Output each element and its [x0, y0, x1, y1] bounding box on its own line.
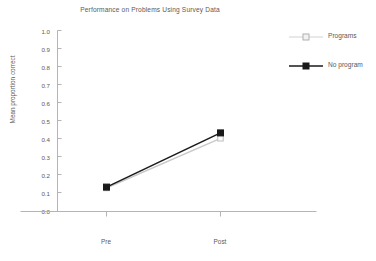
y-axis-ticks	[58, 31, 62, 212]
data-point-marker	[218, 130, 224, 136]
legend-label-no-program: No program	[328, 61, 363, 68]
series-programs	[104, 136, 223, 191]
legend-swatch-programs-icon	[288, 30, 324, 44]
chart-figure: Performance on Problems Using Survey Dat…	[0, 0, 376, 261]
data-point-marker	[104, 184, 110, 190]
legend-swatch-no-program-icon	[288, 59, 324, 73]
legend-label-programs: Programs	[328, 32, 357, 39]
legend-item-no-program[interactable]: No program	[288, 59, 376, 75]
chart-legend: Programs No program	[288, 30, 376, 75]
legend-item-programs[interactable]: Programs	[288, 30, 376, 46]
x-axis-ticks	[107, 212, 221, 217]
data-point-marker	[218, 136, 223, 141]
